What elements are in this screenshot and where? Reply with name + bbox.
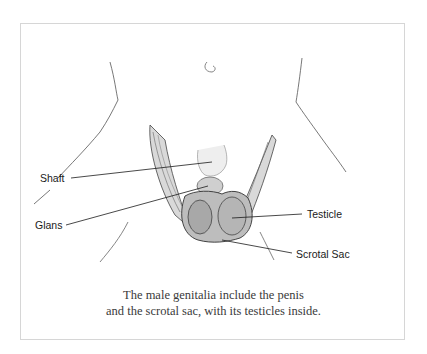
testicle-left — [188, 200, 212, 234]
navel — [205, 62, 215, 72]
figure-caption: The male genitalia include the penis and… — [0, 287, 427, 319]
testicle-right — [218, 197, 246, 235]
caption-line-2: and the scrotal sac, with its testicles … — [0, 303, 427, 319]
label-scrotal-sac: Scrotal Sac — [296, 248, 350, 260]
body-outline-right — [296, 58, 346, 172]
label-glans: Glans — [35, 219, 62, 231]
label-testicle: Testicle — [307, 208, 342, 220]
leader-scrotal-sac — [222, 240, 292, 253]
leader-shaft — [71, 162, 212, 178]
shaft — [197, 145, 226, 176]
caption-line-1: The male genitalia include the penis — [0, 287, 427, 303]
label-shaft: Shaft — [40, 172, 65, 184]
leg-outline-left — [100, 222, 128, 262]
leg-outline-right — [260, 232, 274, 260]
